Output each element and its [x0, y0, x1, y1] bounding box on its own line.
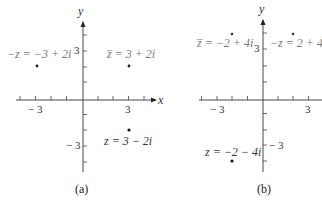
point-neg-z — [36, 65, 39, 68]
caption-a: (a) — [75, 182, 88, 196]
y-tick-label-3: 3 — [254, 42, 260, 54]
point-z-bar — [231, 33, 234, 36]
caption-b: (b) — [257, 182, 271, 196]
complex-plane-figure: y x − 3 3 3 − 3 −z = −3 + 2i z̅ = 3 + 2i… — [0, 0, 322, 204]
y-tick-label-neg3: − 3 — [66, 139, 81, 151]
point-z — [230, 159, 233, 162]
point-neg-z — [292, 33, 295, 36]
x-ticks — [202, 96, 309, 100]
label-neg-z: −z = −3 + 2i — [7, 47, 71, 61]
y-ticks — [263, 33, 267, 161]
point-z-bar — [128, 65, 131, 68]
panel-b: y − 3 3 3 − 3 z̅ = −2 + 4i −z = 2 + 4 z … — [196, 2, 322, 196]
x-tick-label-3: 3 — [305, 103, 311, 115]
x-ticks — [20, 96, 144, 100]
y-ticks — [83, 35, 87, 162]
y-axis-label: y — [77, 4, 84, 18]
label-z: z = −2 − 4i — [204, 145, 261, 159]
x-axis-label: x — [157, 93, 164, 107]
panel-a: y x − 3 3 3 − 3 −z = −3 + 2i z̅ = 3 + 2i… — [7, 4, 164, 196]
x-tick-label-neg3: − 3 — [28, 103, 43, 115]
point-z — [127, 128, 130, 131]
label-z: z = 3 − 2i — [103, 134, 152, 148]
x-tick-label-3: 3 — [125, 103, 131, 115]
y-tick-label-neg3: − 3 — [269, 139, 284, 151]
label-z-bar: z̅ = −2 + 4i — [196, 36, 253, 50]
y-tick-label-3: 3 — [74, 44, 80, 56]
label-neg-z: −z = 2 + 4 — [270, 36, 322, 50]
x-tick-label-neg3: − 3 — [210, 103, 225, 115]
label-z-bar: z̅ = 3 + 2i — [106, 47, 155, 61]
y-axis-label: y — [258, 2, 265, 16]
